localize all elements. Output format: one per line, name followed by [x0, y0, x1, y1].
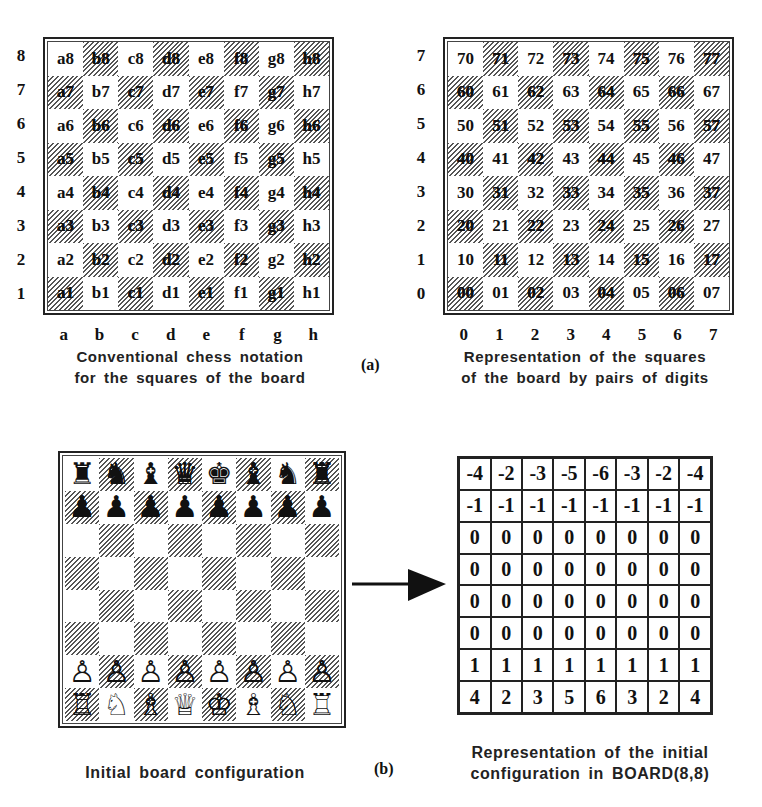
square-label: e4	[198, 183, 214, 203]
board-square: h7	[294, 76, 329, 110]
square-label: 14	[598, 250, 615, 270]
board-square	[99, 557, 133, 590]
square-label: a6	[57, 116, 74, 136]
file-label: d	[163, 325, 179, 345]
board-square: ♝	[134, 458, 168, 491]
rank-label: 1	[13, 284, 29, 304]
square-label: d5	[162, 149, 180, 169]
square-label: b2	[92, 250, 110, 270]
board-square: b7	[83, 76, 118, 110]
board-square: b2	[83, 243, 118, 277]
board-square: d7	[153, 76, 188, 110]
table-cell: 0	[679, 522, 711, 554]
board-square: 60	[448, 76, 483, 110]
board-square	[236, 590, 270, 623]
table-cell: 0	[648, 554, 679, 586]
square-label: 06	[668, 283, 685, 303]
square-label: 23	[562, 216, 579, 236]
board-square: 42	[518, 143, 553, 177]
board-square: ♚	[202, 458, 236, 491]
rank-label: 5	[413, 114, 429, 134]
board-square: 55	[624, 109, 659, 143]
board-square: c3	[118, 210, 153, 244]
table-cell: 0	[522, 617, 553, 649]
board-square: e5	[189, 143, 224, 177]
square-label: 74	[598, 49, 615, 69]
square-label: e2	[198, 250, 214, 270]
square-label: 57	[703, 116, 720, 136]
square-label: h5	[302, 149, 320, 169]
square-label: a3	[57, 216, 74, 236]
square-label: 02	[527, 283, 544, 303]
black-pawn-icon: ♟	[171, 492, 198, 522]
square-label: 64	[598, 82, 615, 102]
board-square: d1	[153, 277, 188, 311]
square-label: 77	[703, 49, 720, 69]
square-label: f3	[234, 216, 248, 236]
square-label: 36	[668, 183, 685, 203]
square-label: 32	[527, 183, 544, 203]
file-label: 6	[670, 325, 686, 345]
table-cell: 1	[491, 649, 522, 681]
board-square: 00	[448, 277, 483, 311]
square-label: b5	[92, 149, 110, 169]
board-square: ♜	[305, 458, 339, 491]
table-cell: 0	[491, 554, 522, 586]
board-square: g5	[259, 143, 294, 177]
white-rook-icon: ♖	[69, 690, 96, 720]
board-square: e7	[189, 76, 224, 110]
board-square: ♖	[65, 688, 99, 721]
board-square: 41	[483, 143, 518, 177]
board-square: ♙	[134, 655, 168, 688]
square-label: 65	[633, 82, 650, 102]
caption-line-1: Representation of the squares	[420, 346, 750, 367]
board-square: 02	[518, 277, 553, 311]
board-square: a4	[48, 176, 83, 210]
square-label: 61	[492, 82, 509, 102]
square-label: a8	[57, 49, 74, 69]
board-square: 01	[483, 277, 518, 311]
board-square	[168, 524, 202, 557]
board-square: ♙	[271, 655, 305, 688]
square-label: 50	[457, 116, 474, 136]
square-label: c7	[128, 82, 144, 102]
black-pawn-icon: ♟	[103, 492, 130, 522]
board-square: ♛	[168, 458, 202, 491]
board-square: 36	[659, 176, 694, 210]
square-label: 47	[703, 149, 720, 169]
file-label: f	[234, 325, 250, 345]
table-cell: 1	[585, 649, 616, 681]
white-pawn-icon: ♙	[308, 657, 335, 687]
board-square: h8	[294, 42, 329, 76]
square-label: 26	[668, 216, 685, 236]
table-cell: 0	[679, 554, 711, 586]
table-cell: -5	[553, 458, 584, 490]
board-square: 76	[659, 42, 694, 76]
square-label: f4	[234, 183, 248, 203]
square-label: f1	[234, 283, 248, 303]
board-square: h5	[294, 143, 329, 177]
table-cell: 0	[459, 617, 491, 649]
board-square: 23	[553, 210, 588, 244]
table-cell: 1	[616, 649, 647, 681]
square-label: 24	[598, 216, 615, 236]
initial-board: ♜♞♝♛♚♝♞♜♟♟♟♟♟♟♟♟♙♙♙♙♙♙♙♙♖♘♗♕♔♗♘♖	[58, 451, 346, 728]
black-king-icon: ♚	[206, 459, 233, 489]
square-label: 04	[598, 283, 615, 303]
white-knight-icon: ♘	[103, 690, 130, 720]
board-square: ♙	[305, 655, 339, 688]
board-square: e4	[189, 176, 224, 210]
chess-notation-caption: Conventional chess notation for the squa…	[40, 346, 340, 388]
square-label: e3	[198, 216, 214, 236]
square-label: f5	[234, 149, 248, 169]
board-square: 51	[483, 109, 518, 143]
table-cell: 0	[648, 585, 679, 617]
square-label: a7	[57, 82, 74, 102]
board-square: 26	[659, 210, 694, 244]
table-row: 11111111	[459, 649, 712, 681]
square-label: h6	[302, 116, 320, 136]
board-square: ♟	[271, 491, 305, 524]
square-label: f7	[234, 82, 248, 102]
board-square: 05	[624, 277, 659, 311]
black-pawn-icon: ♟	[137, 492, 164, 522]
